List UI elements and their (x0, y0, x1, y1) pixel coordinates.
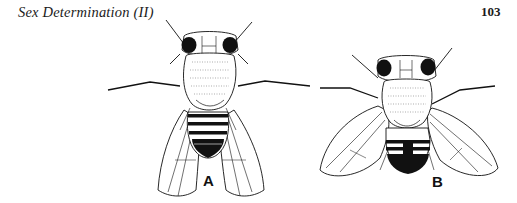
fly-b-illustration (320, 48, 498, 176)
fly-a-illustration (108, 20, 310, 196)
panel-label-b: B (432, 173, 443, 190)
panel-label-a: A (203, 172, 214, 189)
